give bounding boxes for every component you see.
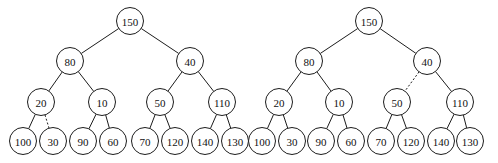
node-circle	[338, 128, 365, 155]
node-circle	[100, 128, 127, 155]
tree-node[interactable]: 40	[177, 48, 204, 75]
tree-node[interactable]: 70	[132, 128, 159, 155]
tree-edge-solid	[320, 28, 358, 53]
tree-node[interactable]: 120	[398, 128, 425, 155]
node-circle	[222, 128, 249, 155]
tree-node[interactable]: 90	[70, 128, 97, 155]
tree-node[interactable]: 30	[40, 128, 67, 155]
tree-node[interactable]: 50	[384, 89, 411, 116]
tree-node[interactable]: 70	[368, 128, 395, 155]
tree-node[interactable]: 150	[356, 8, 383, 35]
tree-node[interactable]: 140	[428, 128, 455, 155]
tree-edges	[267, 28, 466, 128]
left-tree: 150804020105011010030906070120140130	[10, 8, 249, 155]
node-circle	[57, 48, 84, 75]
tree-node[interactable]: 20	[28, 89, 55, 116]
node-circle	[117, 8, 144, 35]
tree-node[interactable]: 10	[89, 89, 116, 116]
node-circle	[89, 89, 116, 116]
tree-diagram-canvas: 1508040201050110100309060701201401301508…	[0, 0, 498, 163]
tree-edge-solid	[435, 72, 451, 92]
node-circle	[447, 89, 474, 116]
tree-edge-solid	[141, 28, 179, 53]
tree-node[interactable]: 110	[209, 89, 236, 116]
tree-edge-solid	[463, 115, 466, 128]
tree-edge-solid	[287, 72, 301, 91]
tree-edge-solid	[165, 115, 170, 129]
node-circle	[10, 128, 37, 155]
node-circle	[384, 89, 411, 116]
tree-edge-solid	[81, 28, 119, 53]
tree-node[interactable]: 100	[249, 128, 276, 155]
node-circle	[279, 128, 306, 155]
node-circle	[326, 89, 353, 116]
node-circle	[308, 128, 335, 155]
tree-node[interactable]: 140	[192, 128, 219, 155]
node-circle	[177, 48, 204, 75]
tree-edge-solid	[168, 72, 182, 91]
tree-edge-solid	[317, 72, 331, 91]
node-circle	[368, 128, 395, 155]
tree-edge-solid	[106, 115, 110, 128]
node-circle	[40, 128, 67, 155]
tree-edge-solid	[150, 115, 155, 129]
tree-node[interactable]: 100	[10, 128, 37, 155]
tree-node[interactable]: 130	[222, 128, 249, 155]
tree-edge-solid	[49, 72, 62, 91]
tree-node[interactable]: 20	[266, 89, 293, 116]
tree-edge-solid	[380, 29, 416, 54]
tree-node[interactable]: 120	[162, 128, 189, 155]
binary-tree-figure: 1508040201050110100309060701201401301508…	[0, 0, 498, 163]
node-circle	[457, 128, 484, 155]
tree-edge-solid	[198, 72, 213, 92]
tree-node[interactable]: 80	[296, 48, 323, 75]
tree-edge-solid	[89, 114, 96, 129]
tree-edge-solid	[386, 114, 392, 128]
tree-node[interactable]: 110	[447, 89, 474, 116]
node-circle	[398, 128, 425, 155]
node-circle	[296, 48, 323, 75]
node-circle	[70, 128, 97, 155]
tree-edge-solid	[226, 115, 230, 128]
tree-node[interactable]: 90	[308, 128, 335, 155]
node-circle	[414, 48, 441, 75]
tree-node[interactable]: 150	[117, 8, 144, 35]
tree-edge-solid	[78, 72, 93, 92]
tree-edge-solid	[210, 114, 216, 128]
tree-edge-dashed	[405, 72, 419, 91]
right-tree: 150804020105011010030906070120140130	[249, 8, 484, 155]
tree-edge-solid	[29, 114, 36, 128]
node-circle	[132, 128, 159, 155]
tree-edge-solid	[283, 115, 287, 128]
node-circle	[192, 128, 219, 155]
node-circle	[266, 89, 293, 116]
tree-edge-solid	[267, 114, 273, 128]
tree-node[interactable]: 60	[338, 128, 365, 155]
node-circle	[249, 128, 276, 155]
tree-edge-solid	[447, 114, 454, 129]
node-circle	[28, 89, 55, 116]
node-circle	[209, 89, 236, 116]
tree-node[interactable]: 30	[279, 128, 306, 155]
tree-node[interactable]: 40	[414, 48, 441, 75]
node-circle	[356, 8, 383, 35]
tree-edges	[29, 28, 231, 128]
node-circle	[162, 128, 189, 155]
tree-node[interactable]: 130	[457, 128, 484, 155]
node-circle	[147, 89, 174, 116]
tree-edge-solid	[402, 115, 407, 129]
node-circle	[428, 128, 455, 155]
tree-node[interactable]: 50	[147, 89, 174, 116]
tree-edge-solid	[327, 114, 334, 128]
tree-edge-solid	[343, 115, 347, 128]
tree-node[interactable]: 10	[326, 89, 353, 116]
tree-edge-dashed	[45, 115, 49, 128]
tree-node[interactable]: 60	[100, 128, 127, 155]
tree-node[interactable]: 80	[57, 48, 84, 75]
